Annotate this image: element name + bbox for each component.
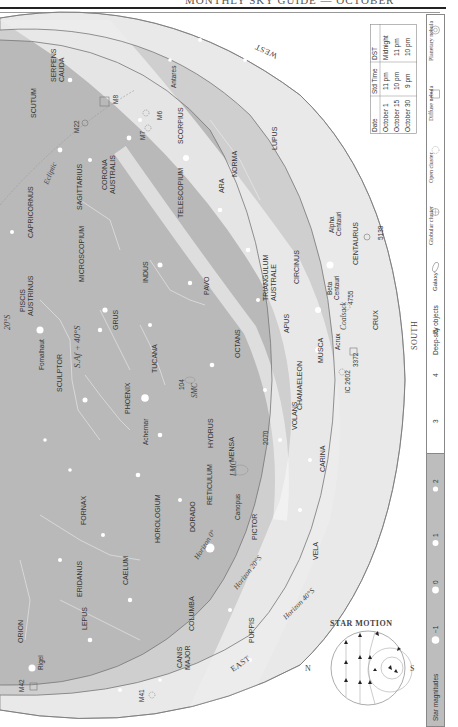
label-musca: MUSCA [317,337,324,363]
mag-1-label: 1 [432,533,439,537]
cell: October 15 [393,100,400,132]
label-serpens: SERPENS [50,48,57,82]
cell: 10 pm [393,72,400,90]
star-motion-s: S [410,664,415,673]
svg-text:CAUDA: CAUDA [58,57,65,82]
label-fornax: FORNAX [80,496,87,526]
label-scorpius: SCORPIUS [177,107,184,144]
label-dorado: DORADO [189,501,196,532]
cell: October 30 [404,100,411,132]
svg-text:Centauri: Centauri [333,275,340,300]
label-coalsack: Coalsack [339,301,348,330]
label-canis: CANIS [176,646,183,668]
svg-text:Centauri: Centauri [335,211,342,236]
legend-planetary-nebula: Planetary nebula [428,31,434,61]
label-eridanus: ERIDANUS [76,560,83,597]
label-5139: 5139 [377,225,384,240]
label-microscopium: MICROSCOPIUM [78,226,85,282]
label-piscis: PISCIS [19,289,26,312]
label-telescopium: TELESCOPIUM [177,168,184,218]
label-m6: M6 [156,111,163,120]
label-3372: 3372 [352,352,359,367]
mag-neg1-dot [432,636,440,644]
mag-0-label: 0 [432,580,439,584]
th-std: Std Time [371,68,378,94]
label-hydrus: HYDRUS [207,418,214,448]
label-lupus: LUPUS [271,126,278,150]
label-capricornus: CAPRICORNUS [27,186,34,238]
label-pavo: PAVO [203,276,210,295]
mag-1-dot [433,540,439,546]
mag-4-dot [434,380,437,383]
cell: 11 pm [393,38,400,56]
label-fomalhaut: Fomalhaut [38,339,45,370]
label-south: SOUTH [410,321,419,350]
label-horologium: HOROLOGIUM [154,494,161,543]
star-alpha-centauri [327,262,334,269]
mag-3-label: 3 [432,419,439,423]
legend-diffuse-nebula: Diffuse nebula [428,91,434,121]
legend-globular-cluster: Globular cluster [428,215,434,245]
cell: 10 pm [404,38,411,56]
label-m8: M8 [112,95,119,104]
star-beta-centauri [315,307,321,313]
legend-star-magnitudes-label: Star magnitudes [432,674,439,721]
svg-text:AUSTRALE: AUSTRALE [270,264,277,301]
label-zenith: S.Af + 40°S [72,325,82,368]
cell: Midnight [382,35,389,60]
label-achernar: Achernar [142,418,149,445]
label-rigel: Rigel [37,655,45,670]
label-triangulum: TRIANGULUM [262,255,269,301]
label-centaurus: CENTAURUS [352,222,359,265]
label-tucana: TUCANA [151,344,158,373]
star-achernar [141,394,149,402]
label-circinus: CIRCINUS [293,250,300,284]
label-canopus: Canopus [234,493,242,520]
label-beta: Beta [326,281,333,295]
label-columba: COLUMBA [188,596,195,631]
label-apus: APUS [283,314,290,333]
star-motion-title: STAR MOTION [330,619,392,628]
label-volans: VOLANS [291,401,298,430]
mag-0-dot [432,587,439,594]
galaxy-icon [431,261,439,272]
star-antares [183,155,189,161]
star-chart-page: MONTHLY SKY GUIDE — OCTOBER [0,0,458,727]
cell: 9 pm [404,74,411,88]
mag-4-label: 4 [432,373,439,377]
mag-neg1-label: −1 [432,626,439,633]
label-orion: ORION [17,620,24,643]
label-lepus: LEPUS [81,607,88,630]
svg-text:AUSTRALIS: AUSTRALIS [109,155,116,194]
label-west: WEST [253,42,278,60]
label-m7: M7 [139,131,146,140]
mag-2-dot [433,486,438,491]
label-reticulum: RETICULUM [206,464,213,505]
svg-text:MAJOR: MAJOR [184,646,191,671]
label-lmc: LMC [229,460,238,477]
legend-bar: Planetary nebula Diffuse nebula Open clu… [426,14,445,727]
label-norma: NORMA [231,151,238,177]
label-carina: CARINA [319,445,326,472]
cell: 11 pm [382,72,389,90]
label-104: 104 [178,379,185,390]
legend-galaxy: Galaxy [432,272,438,291]
star-fomalhaut [37,327,44,334]
label-puppis: PUPPIS [248,617,255,643]
label-m42: M42 [18,679,25,692]
label-smc: SMC [190,382,199,398]
legend-open-cluster: Open cluster [428,153,434,183]
cell: October 1 [382,103,389,132]
label-m41: M41 [138,689,145,702]
label-m22: M22 [73,120,80,133]
label-20s: 20°S [3,315,12,330]
label-vela: VELA [312,542,319,560]
star-rigel [29,665,36,672]
label-grus: GRUS [112,309,119,330]
label-2070: 2070 [262,430,269,445]
label-crux: CRUX [372,310,379,330]
label-mensa: MENSA [228,437,235,462]
label-ara: ARA [218,178,225,193]
th-date: Date [371,118,378,132]
mag-5-label: 5 [432,329,439,333]
